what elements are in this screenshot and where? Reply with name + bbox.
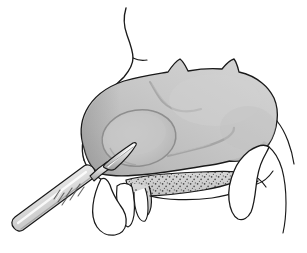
medical-illustration-figure: Sagittal view of oral cavity with scalpe… xyxy=(0,0,307,253)
illustration-canvas xyxy=(0,0,307,253)
